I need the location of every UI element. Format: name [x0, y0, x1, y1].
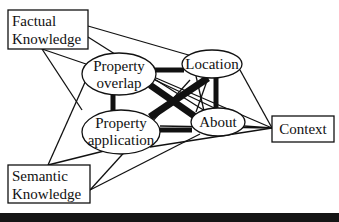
semantic-knowledge-label-2: Knowledge — [12, 186, 81, 202]
property-application-label-2: application — [88, 132, 155, 148]
factual-knowledge-label-2: Knowledge — [12, 31, 81, 47]
knowledge-context-diagram: Factual Knowledge Semantic Knowledge Pro… — [0, 0, 339, 222]
property-overlap-node: Property overlap — [82, 53, 156, 95]
property-overlap-label-1: Property — [93, 58, 145, 74]
factual-knowledge-label-1: Factual — [12, 13, 56, 29]
context-label: Context — [279, 121, 327, 137]
location-node: Location — [182, 50, 242, 78]
context-node: Context — [272, 116, 334, 142]
about-node: About — [191, 108, 245, 136]
property-application-label-1: Property — [95, 115, 147, 131]
bottom-bar — [0, 213, 339, 222]
semantic-knowledge-node: Semantic Knowledge — [8, 165, 90, 203]
location-label: Location — [185, 56, 239, 72]
about-label: About — [199, 114, 237, 130]
semantic-knowledge-label-1: Semantic — [12, 168, 68, 184]
factual-knowledge-node: Factual Knowledge — [8, 10, 88, 49]
property-overlap-label-2: overlap — [97, 75, 142, 91]
property-application-node: Property application — [82, 110, 160, 154]
